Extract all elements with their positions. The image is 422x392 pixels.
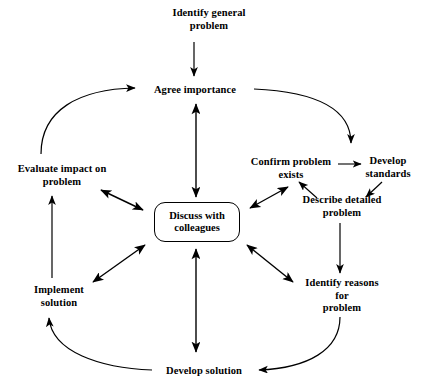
node-evaluate-impact-on-problem[interactable]: Evaluate impact on problem — [18, 163, 107, 188]
node-identify-general-problem[interactable]: Identify general problem — [172, 7, 245, 32]
connector-confirm-problem-exists-and-discuss-with-colleagues — [250, 187, 288, 208]
connector-identify-reasons-for-problem-and-discuss-with-colleagues — [247, 245, 293, 282]
node-agree-importance[interactable]: Agree importance — [154, 84, 236, 97]
connector-develop-solution-to-implement-solution — [49, 318, 152, 370]
node-discuss-with-colleagues[interactable]: Discuss with colleagues — [154, 202, 240, 242]
node-describe-detailed-problem[interactable]: Describe detailed problem — [303, 194, 382, 219]
connector-evaluate-impact-on-problem-to-agree-importance — [41, 88, 135, 154]
node-confirm-problem-exists[interactable]: Confirm problem exists — [251, 156, 331, 181]
connector-agree-importance-to-confirm-problem-exists — [254, 89, 351, 143]
node-develop-solution[interactable]: Develop solution — [166, 365, 242, 378]
node-discuss-with-colleagues-label: Discuss with colleagues — [169, 210, 225, 235]
node-implement-solution[interactable]: Implement solution — [34, 284, 84, 309]
connector-evaluate-impact-on-problem-and-discuss-with-colleagues — [101, 190, 143, 210]
problem-solving-cycle-diagram: Identify general problem Agree importanc… — [0, 0, 422, 392]
connector-implement-solution-and-discuss-with-colleagues — [93, 245, 145, 282]
node-develop-standards[interactable]: Develop standards — [365, 155, 410, 180]
connector-identify-reasons-for-problem-to-develop-solution — [259, 317, 340, 370]
node-identify-reasons-for-problem[interactable]: Identify reasons for problem — [302, 277, 382, 315]
